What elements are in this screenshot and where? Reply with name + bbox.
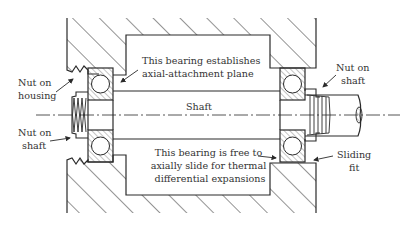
label-nut-on-shaft-left: Nut on shaft	[18, 127, 55, 151]
housing-upper	[67, 18, 316, 75]
label-nut-on-housing: Nut on housing	[18, 77, 56, 101]
bearing-arrangement-diagram: Nut on housing Nut on shaft This bearing…	[0, 0, 406, 229]
label-shaft: Shaft	[186, 101, 212, 112]
label-fixed-bearing: This bearing establishes axial-attachmen…	[142, 55, 263, 79]
label-sliding-fit: Sliding fit	[337, 149, 374, 173]
label-nut-on-shaft-right: Nut on shaft	[336, 62, 373, 86]
label-floating-bearing: This bearing is free to axially slide fo…	[151, 147, 270, 184]
